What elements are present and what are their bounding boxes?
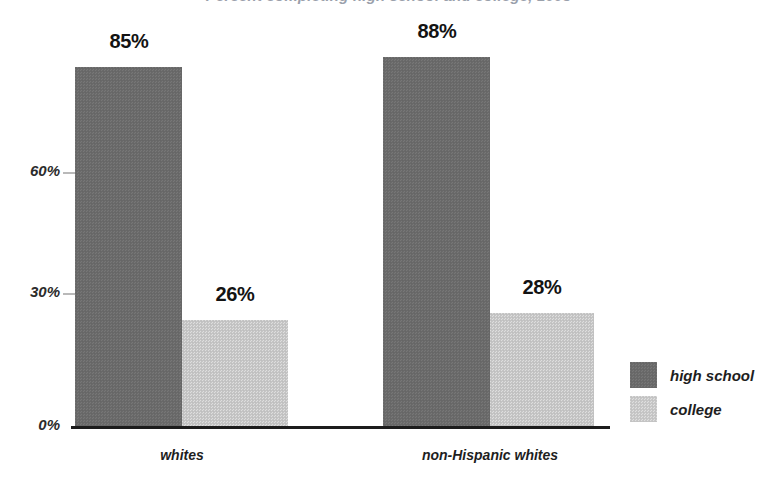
legend-item-high-school[interactable]: high school [630,358,754,392]
y-axis-tick-30: 30% [8,283,60,300]
legend-label-high-school: high school [670,367,754,384]
y-axis-tickmark-60 [63,172,75,174]
bar-non-hispanic-whites-high-school[interactable] [383,57,490,427]
bar-value-label-non-hispanic-whites-college: 28% [496,276,588,299]
bar-value-label-whites-college: 26% [189,283,281,306]
y-axis-tickmark-30 [63,293,75,295]
y-axis-tick-0: 0% [8,416,60,433]
bar-chart: Percent completing high school and colle… [0,0,777,485]
legend-swatch-college [630,396,657,422]
bar-value-label-non-hispanic-whites-high-school: 88% [391,20,483,43]
bar-whites-high-school[interactable] [75,67,182,427]
legend-label-college: college [670,401,722,418]
x-axis-category-whites: whites [102,447,262,463]
bar-whites-college[interactable] [182,320,288,427]
x-axis-line [71,426,610,429]
bar-non-hispanic-whites-college[interactable] [490,313,594,427]
x-axis-category-non-hispanic-whites: non-Hispanic whites [390,447,590,463]
legend-swatch-high-school [630,362,657,388]
legend: high school college [630,358,754,426]
y-axis-tick-60: 60% [8,162,60,179]
bar-value-label-whites-high-school: 85% [83,30,175,53]
plot-area: 60% 30% 0% 85% 26% 88% 28% whites non-Hi… [0,0,777,485]
legend-item-college[interactable]: college [630,392,754,426]
